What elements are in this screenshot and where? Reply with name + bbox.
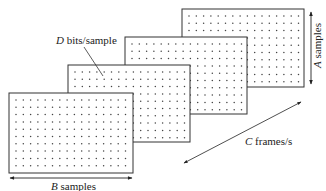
frame-1 — [9, 93, 133, 173]
frame-stack — [9, 9, 304, 173]
depth-label: D bits/sample — [55, 34, 117, 46]
rate-label: C frames/s — [245, 135, 292, 147]
frame-border — [9, 93, 133, 173]
height-label: A samples — [311, 23, 323, 69]
width-label: B samples — [51, 180, 96, 191]
video-frames-diagram: D bits/sample A samples B samples C fram… — [0, 0, 326, 191]
